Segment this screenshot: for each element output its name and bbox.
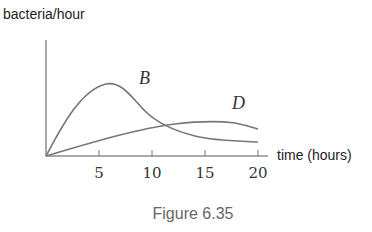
- curve-b-label: B: [139, 68, 150, 89]
- x-tick-label: 5: [94, 164, 104, 182]
- plot-area: [0, 0, 372, 232]
- curve-d-label: D: [232, 93, 245, 114]
- curve-b: [46, 84, 258, 156]
- x-tick-label: 20: [248, 164, 267, 182]
- figure-caption: Figure 6.35: [0, 205, 372, 223]
- x-tick-label: 10: [142, 164, 161, 182]
- x-ticks: [99, 150, 258, 156]
- x-axis-label: time (hours): [277, 147, 352, 163]
- x-tick-label: 15: [195, 164, 214, 182]
